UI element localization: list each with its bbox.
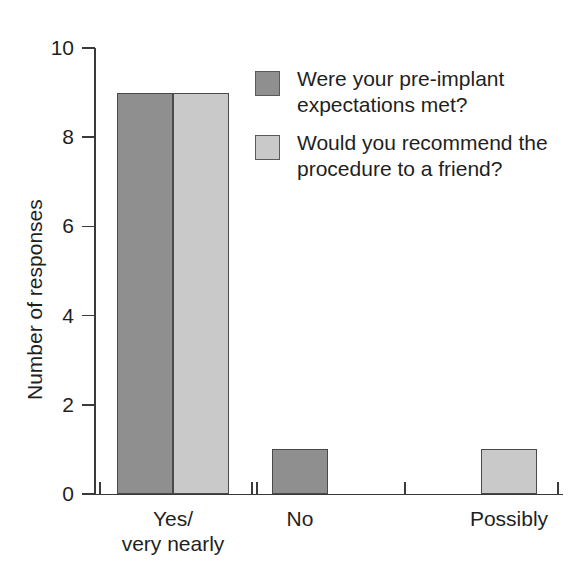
y-tick-label: 4 bbox=[40, 305, 74, 326]
y-tick-mark bbox=[82, 47, 95, 49]
y-tick-label: 8 bbox=[40, 126, 74, 147]
x-tick-mark-3 bbox=[404, 482, 406, 494]
x-tick-mark-0 bbox=[99, 482, 101, 494]
bar-yes-recommend bbox=[173, 93, 229, 494]
y-tick-mark bbox=[82, 315, 95, 317]
legend-swatch-1 bbox=[255, 135, 280, 160]
legend-item-0: Were your pre-implant expectations met? bbox=[255, 66, 575, 118]
x-tick-mark-2 bbox=[256, 482, 258, 494]
legend-label-0: Were your pre-implant expectations met? bbox=[297, 66, 504, 118]
bar-possibly-recommend bbox=[481, 449, 537, 494]
x-axis-label-1: No bbox=[200, 506, 400, 531]
bar-yes-expectations bbox=[117, 93, 173, 494]
y-tick-label: 0 bbox=[40, 483, 74, 504]
legend-swatch-0 bbox=[255, 71, 280, 96]
y-tick-mark bbox=[82, 404, 95, 406]
chart-legend: Were your pre-implant expectations met?W… bbox=[255, 66, 575, 194]
y-tick-mark bbox=[82, 493, 95, 495]
legend-label-1: Would you recommend the procedure to a f… bbox=[297, 130, 548, 182]
y-tick-mark bbox=[82, 136, 95, 138]
y-tick-label: 10 bbox=[40, 37, 74, 58]
legend-item-1: Would you recommend the procedure to a f… bbox=[255, 130, 575, 182]
bar-no-expectations bbox=[272, 449, 328, 494]
y-tick-mark bbox=[82, 226, 95, 228]
x-tick-mark-1 bbox=[251, 482, 253, 494]
y-axis-line bbox=[94, 48, 96, 495]
x-axis-label-2: Possibly bbox=[409, 506, 585, 531]
y-tick-label: 6 bbox=[40, 215, 74, 236]
bar-chart: Number of responses 1086420 Yes/ very ne… bbox=[0, 0, 585, 584]
x-tick-mark-4 bbox=[557, 482, 559, 494]
y-tick-label: 2 bbox=[40, 394, 74, 415]
